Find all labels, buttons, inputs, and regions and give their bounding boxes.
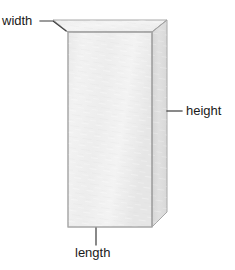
label-width: width <box>2 14 32 27</box>
rectangular-prism-figure: width height length <box>0 0 235 270</box>
prism-illustration <box>0 0 235 270</box>
prism-right-face <box>152 20 167 227</box>
label-length: length <box>75 246 110 259</box>
label-height: height <box>186 104 221 117</box>
prism-front-face <box>68 32 152 227</box>
prism-top-face <box>53 20 167 32</box>
